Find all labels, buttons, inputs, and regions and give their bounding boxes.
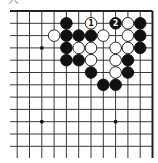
- white-stone: [85, 42, 97, 54]
- black-stone: [110, 79, 122, 91]
- black-stone: [73, 30, 85, 42]
- black-stone: [122, 67, 134, 79]
- go-board: 12: [0, 0, 158, 163]
- move-number-label: 1: [88, 19, 94, 28]
- move-number-label: 2: [113, 19, 119, 28]
- white-stone: [110, 67, 122, 79]
- white-stone: [122, 42, 134, 54]
- black-stone: [134, 18, 146, 30]
- white-stone: [110, 54, 122, 66]
- black-stone: [122, 54, 134, 66]
- black-stone: [73, 54, 85, 66]
- black-stone: [85, 30, 97, 42]
- black-stone: [98, 79, 110, 91]
- white-stone: [122, 18, 134, 30]
- white-stone: [98, 30, 110, 42]
- star-point: [40, 46, 44, 50]
- white-stone: [73, 42, 85, 54]
- white-stone: [122, 30, 134, 42]
- black-stone: [134, 42, 146, 54]
- black-stone: [85, 67, 97, 79]
- white-stone: [110, 42, 122, 54]
- black-stone: [61, 18, 73, 30]
- black-stone: [61, 42, 73, 54]
- star-point: [114, 120, 118, 124]
- black-stone: [134, 30, 146, 42]
- star-point: [40, 120, 44, 124]
- white-stone: [48, 30, 60, 42]
- black-stone: [61, 30, 73, 42]
- black-stone: [61, 54, 73, 66]
- white-stone: [85, 54, 97, 66]
